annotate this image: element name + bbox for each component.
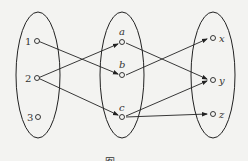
node-b (120, 73, 125, 78)
label-y: y (218, 75, 225, 86)
label-b: b (119, 59, 125, 70)
edge-c-z (126, 114, 207, 117)
diagram-canvas: 1 2 3 a b c x y z 图 (0, 0, 248, 161)
label-a: a (119, 26, 125, 37)
node-y (211, 78, 216, 83)
node-a (120, 40, 125, 45)
label-c: c (119, 102, 125, 113)
node-1 (35, 39, 40, 44)
label-1: 1 (25, 36, 31, 47)
label-3: 3 (27, 112, 33, 123)
node-x (211, 36, 216, 41)
node-2 (35, 76, 40, 81)
edge-a-y (126, 43, 207, 79)
node-c (120, 115, 125, 120)
label-2: 2 (25, 73, 31, 84)
label-x: x (219, 33, 225, 44)
edge-2-c (38, 78, 118, 115)
node-3 (36, 115, 41, 120)
node-z (211, 112, 216, 117)
edge-b-x (126, 39, 207, 75)
edge-1-b (38, 41, 118, 74)
figure-caption: 图 (105, 157, 115, 161)
label-z: z (218, 109, 225, 120)
mapping-diagram: 1 2 3 a b c x y z 图 (0, 0, 248, 161)
edge-2-a (38, 44, 118, 78)
